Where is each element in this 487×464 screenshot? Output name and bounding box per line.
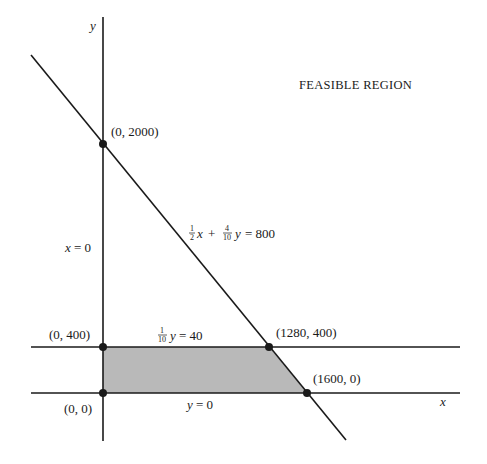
svg-text:10: 10 <box>158 335 166 344</box>
point-label-0-2000: (0, 2000) <box>111 124 159 139</box>
svg-text:1: 1 <box>190 224 194 233</box>
diagram-title: FEASIBLE REGION <box>299 78 412 92</box>
y-axis-label: y <box>88 18 96 33</box>
label-x-equals-0: x = 0 <box>64 240 91 255</box>
svg-text:+: + <box>208 226 215 241</box>
svg-text:y: y <box>168 328 176 343</box>
label-tenth-y-equals-40: 1 10 y = 40 <box>158 326 203 344</box>
svg-text:y: y <box>233 226 241 241</box>
vertex-point-0-2000 <box>99 140 107 148</box>
svg-text:4: 4 <box>225 224 229 233</box>
svg-text:= 0: = 0 <box>196 397 213 412</box>
svg-text:y: y <box>185 397 193 412</box>
point-label-0-0: (0, 0) <box>64 401 92 416</box>
x-axis-label: x <box>439 394 446 409</box>
svg-text:= 800: = 800 <box>245 226 275 241</box>
svg-text:= 0: = 0 <box>74 240 91 255</box>
feasible-region-diagram: y x FEASIBLE REGION (0, 2000) (0, 400) (… <box>0 0 487 464</box>
point-label-1600-0: (1600, 0) <box>313 371 361 386</box>
label-diagonal-equation: 1 2 x + 4 10 y = 800 <box>189 224 275 242</box>
point-label-0-400: (0, 400) <box>49 327 90 342</box>
svg-text:x: x <box>64 240 71 255</box>
vertex-point-0-0 <box>99 389 107 397</box>
svg-text:2: 2 <box>190 233 194 242</box>
vertex-point-1280-400 <box>265 343 273 351</box>
svg-text:= 40: = 40 <box>179 328 203 343</box>
label-y-equals-0: y = 0 <box>185 397 213 412</box>
vertex-point-1600-0 <box>303 389 311 397</box>
svg-text:1: 1 <box>160 326 164 335</box>
vertex-point-0-400 <box>99 343 107 351</box>
svg-text:x: x <box>196 226 203 241</box>
point-label-1280-400: (1280, 400) <box>276 325 337 340</box>
svg-text:10: 10 <box>223 233 231 242</box>
